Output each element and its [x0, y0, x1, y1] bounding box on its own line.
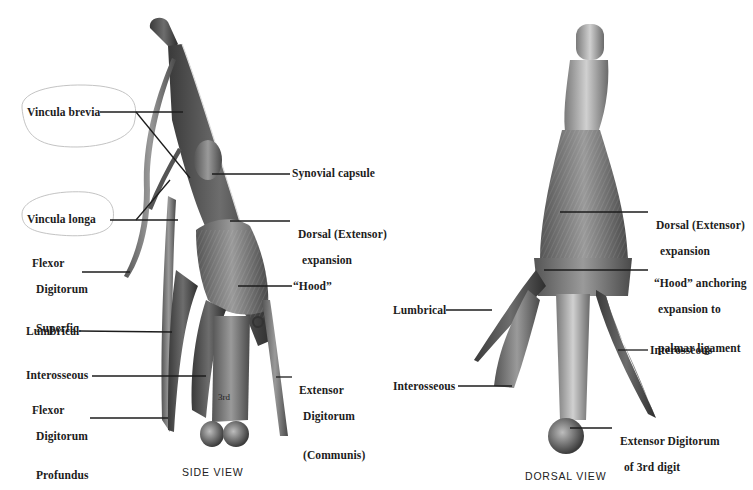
label-edc3-line1: Extensor Digitorum [620, 435, 720, 447]
label-edc-line2: Digitorum [293, 410, 365, 423]
label-fds-line1: Flexor [32, 257, 65, 269]
label-fdp-line3: Profundus [26, 469, 88, 482]
caption-dorsal-view: DORSAL VIEW [525, 470, 606, 482]
label-edc3-line2: of 3rd digit [614, 461, 720, 474]
label-fdp-line1: Flexor [32, 404, 65, 416]
label-dorsal-expansion-dorsal: Dorsal (Extensor) expansion [650, 206, 745, 271]
label-dorsal-expansion-side: Dorsal (Extensor) expansion [292, 215, 387, 280]
label-dorsal-expansion-side-line2: expansion [292, 254, 387, 267]
dorsal-view-drawing [474, 24, 656, 454]
bone-mark-3rd: 3rd [218, 392, 230, 402]
label-hood-side: “Hood” [293, 280, 332, 293]
side-view-drawing: 3rd [124, 18, 288, 447]
label-lumbrical-side: Lumbrical [26, 325, 79, 338]
label-interosseous-dorsal-right: Interosseous [650, 344, 712, 357]
label-fdp-line2: Digitorum [26, 430, 88, 443]
label-lumbrical-dorsal: Lumbrical [393, 304, 446, 317]
label-dorsal-expansion-side-line1: Dorsal (Extensor) [298, 228, 387, 240]
label-interosseous-side: Interosseous [26, 369, 88, 382]
label-fds-line2: Digitorum [26, 283, 88, 296]
label-vincula-brevia: Vincula brevia [27, 106, 100, 119]
label-vincula-longa: Vincula longa [27, 213, 96, 226]
label-dorsal-expansion-dorsal-line2: expansion [650, 245, 745, 258]
label-dorsal-expansion-dorsal-line1: Dorsal (Extensor) [656, 219, 745, 231]
label-edc-line3: (Communis) [293, 449, 365, 462]
label-flexor-digitorum-profundus: Flexor Digitorum Profundus [26, 391, 88, 490]
label-synovial-capsule: Synovial capsule [292, 167, 375, 180]
label-extensor-digitorum-communis: Extensor Digitorum (Communis) [293, 371, 365, 475]
label-hood-anchoring-line2: expansion to [648, 303, 747, 316]
label-interosseous-dorsal-left: Interosseous [393, 380, 455, 393]
label-edc-line1: Extensor [299, 384, 344, 396]
label-hood-anchoring-line1: “Hood” anchoring [654, 277, 747, 289]
caption-side-view: SIDE VIEW [182, 466, 243, 478]
label-extensor-digitorum-3rd: Extensor Digitorum of 3rd digit [614, 422, 720, 487]
